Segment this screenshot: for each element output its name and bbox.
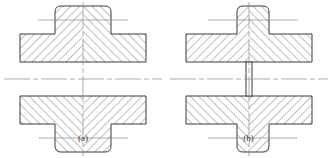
subfigure-caption-b: (b) xyxy=(166,133,331,143)
figure-panel: (a) (b) xyxy=(0,0,331,158)
subfigure-caption-a: (a) xyxy=(0,133,166,143)
